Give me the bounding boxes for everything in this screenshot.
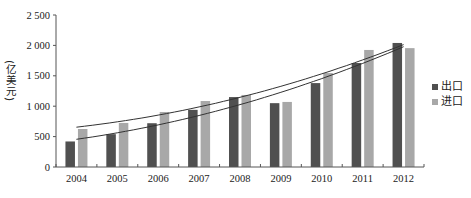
bar-import — [160, 112, 170, 167]
y-tick-label: 2 500 — [26, 10, 50, 21]
x-axis: 200420052006200720082009201020112012 — [56, 164, 424, 184]
x-tick-label: 2004 — [66, 173, 88, 184]
bar-export — [106, 134, 116, 167]
y-tick-label: 1 000 — [26, 101, 50, 112]
y-tick-label: 0 — [45, 162, 50, 173]
bar-import — [282, 102, 292, 167]
bar-export — [393, 43, 403, 167]
bar-import — [405, 48, 415, 167]
bar-import — [242, 95, 252, 167]
y-tick-label: 2 000 — [26, 40, 50, 51]
x-tick-label: 2006 — [148, 173, 169, 184]
bar-export — [270, 103, 280, 167]
x-tick-label: 2009 — [270, 173, 291, 184]
y-axis-label: (亿美元) — [3, 60, 17, 120]
x-tick-label: 2007 — [189, 173, 210, 184]
bar-chart: 05001 0001 5002 0002 500 200420052006200… — [0, 0, 471, 198]
x-tick-label: 2005 — [107, 173, 128, 184]
legend: 出口 进口 — [432, 79, 463, 109]
bar-export — [311, 83, 321, 167]
x-tick-label: 2010 — [311, 173, 332, 184]
bar-export — [147, 123, 157, 167]
y-axis: 05001 0001 5002 0002 500 — [26, 10, 56, 173]
bar-export — [65, 141, 75, 167]
bar-import — [364, 50, 374, 167]
bar-export — [188, 110, 198, 167]
bar-import — [201, 101, 211, 167]
bar-import — [119, 123, 129, 167]
y-tick-label: 1 500 — [26, 70, 50, 81]
legend-item-export: 出口 — [432, 79, 463, 94]
bar-export — [352, 63, 362, 167]
x-tick-label: 2011 — [352, 173, 373, 184]
legend-swatch-export — [432, 84, 438, 90]
legend-item-import: 进口 — [432, 94, 463, 109]
x-tick-label: 2012 — [393, 173, 414, 184]
y-tick-label: 500 — [34, 131, 50, 142]
bar-import — [323, 73, 333, 167]
legend-swatch-import — [432, 99, 438, 105]
x-tick-label: 2008 — [230, 173, 251, 184]
bar-import — [78, 129, 88, 167]
